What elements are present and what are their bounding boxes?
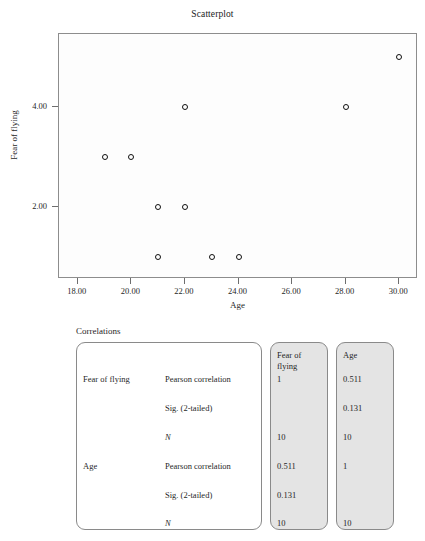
scatter-point <box>155 254 161 260</box>
scatter-point <box>128 154 134 160</box>
x-axis-tick-label: 22.00 <box>174 286 193 296</box>
scatter-point <box>236 254 242 260</box>
x-axis-tick-label: 20.00 <box>121 286 140 296</box>
table-column-header: Age <box>343 350 389 361</box>
x-axis-tick-label: 18.00 <box>67 286 86 296</box>
scatter-point <box>102 154 108 160</box>
y-axis-tick-label: 4.00 <box>32 101 47 111</box>
table-cell-value: 10 <box>277 432 286 442</box>
x-axis-tick-mark <box>398 278 399 284</box>
x-axis-tick-mark <box>345 278 346 284</box>
table-cell-value: 10 <box>343 518 352 528</box>
x-axis-label: Age <box>58 300 417 310</box>
plot-frame <box>58 33 417 278</box>
table-cell-value: 1 <box>343 461 347 471</box>
table-cell-value: 0.131 <box>343 403 362 413</box>
table-row-statistic: Sig. (2-tailed) <box>165 403 212 413</box>
table-column-header: Fear of flying <box>277 350 323 371</box>
x-axis-tick-mark <box>77 278 78 284</box>
table-cell-value: 0.511 <box>277 461 296 471</box>
x-axis-tick-label: 28.00 <box>335 286 354 296</box>
table-cell-value: 1 <box>277 374 281 384</box>
table-row-variable: Fear of flying <box>83 374 130 384</box>
x-axis-tick-mark <box>184 278 185 284</box>
scatter-point <box>182 104 188 110</box>
scatter-point <box>396 54 402 60</box>
scatter-point <box>155 204 161 210</box>
scatter-point <box>209 254 215 260</box>
table-cell-value: 10 <box>277 518 286 528</box>
chart-title: Scatterplot <box>0 9 425 19</box>
correlations-table: Correlations Fear of flyingAge Fear of f… <box>0 318 425 541</box>
table-row-variable: Age <box>83 461 97 471</box>
x-axis-tick-label: 26.00 <box>282 286 301 296</box>
x-axis-tick-mark <box>291 278 292 284</box>
scatter-point <box>182 204 188 210</box>
table-cell-value: 0.131 <box>277 490 296 500</box>
table-cell-value: 0.511 <box>343 374 362 384</box>
table-row-statistic: N <box>165 432 171 442</box>
x-axis-tick-mark <box>130 278 131 284</box>
table-row-statistic: Pearson correlation <box>165 461 231 471</box>
table-row-statistic: Sig. (2-tailed) <box>165 490 212 500</box>
x-axis-tick-label: 24.00 <box>228 286 247 296</box>
y-axis-tick-label: 2.00 <box>32 201 47 211</box>
x-axis-tick-mark <box>238 278 239 284</box>
x-axis-tick-label: 30.00 <box>389 286 408 296</box>
table-row-statistic: Pearson correlation <box>165 374 231 384</box>
scatterplot-figure: Scatterplot Fear of flying Age 2.004.00 … <box>0 0 425 318</box>
y-axis-label: Fear of flying <box>9 85 19 185</box>
table-caption: Correlations <box>76 326 121 336</box>
page-root: Scatterplot Fear of flying Age 2.004.00 … <box>0 0 425 541</box>
table-row-statistic: N <box>165 518 171 528</box>
table-cell-value: 10 <box>343 432 352 442</box>
scatter-point <box>343 104 349 110</box>
